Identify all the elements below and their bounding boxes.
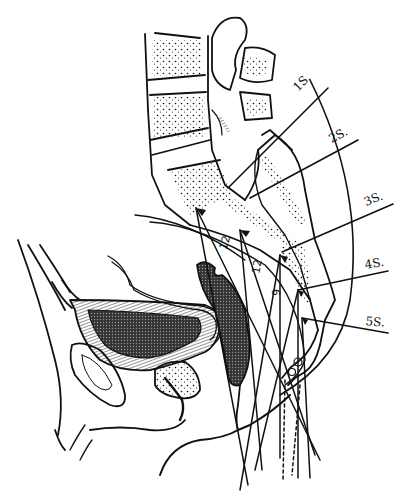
- pelvis-sagittal-diagram: [0, 0, 407, 500]
- prostate: [155, 362, 200, 420]
- coccyx: [282, 330, 320, 385]
- lumbar-vertebrae: [145, 18, 275, 225]
- needle-depth-label-2: 12: [249, 258, 264, 274]
- needle-depth-label-3: 9: [270, 288, 284, 296]
- label-5s: 5S.: [365, 314, 385, 330]
- abdominal-wall: [18, 240, 92, 460]
